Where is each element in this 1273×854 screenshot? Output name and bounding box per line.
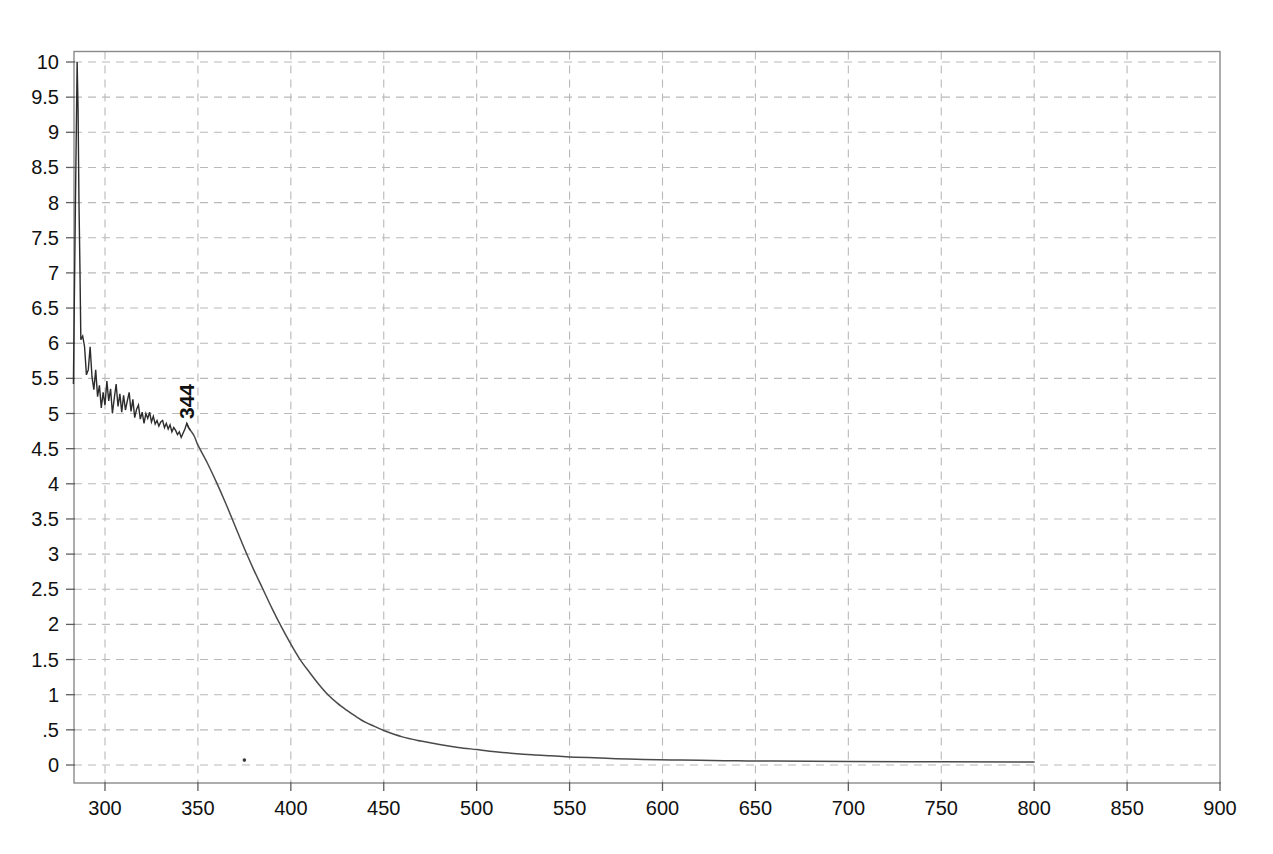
y-axis-labels: 0.511.522.533.544.555.566.577.588.599.51…: [31, 51, 59, 776]
y-tick-label: 9: [48, 121, 59, 143]
x-tick-label: 650: [739, 797, 772, 819]
x-gridlines-group: [105, 52, 1127, 784]
peak-annotations: 344: [175, 384, 198, 419]
y-tick-label: 5.5: [31, 367, 59, 389]
absorbance-curve-noise-region: [73, 62, 190, 437]
y-tick-label: 0: [48, 754, 59, 776]
y-tick-label: 3.5: [31, 508, 59, 530]
absorbance-curve: [187, 423, 1034, 762]
x-tick-label: 700: [832, 797, 865, 819]
x-tick-label: 500: [460, 797, 493, 819]
y-tick-label: 8: [48, 192, 59, 214]
spectrum-page: 0.511.522.533.544.555.566.577.588.599.51…: [0, 0, 1273, 854]
y-tick-label: 8.5: [31, 156, 59, 178]
y-tick-label: 1: [48, 684, 59, 706]
y-tick-label: 4: [48, 473, 59, 495]
y-tick-label: 7: [48, 262, 59, 284]
x-tick-label: 600: [646, 797, 679, 819]
x-tick-label: 900: [1203, 797, 1236, 819]
y-tick-label: 7.5: [31, 227, 59, 249]
x-tick-label: 350: [181, 797, 214, 819]
spectrum-plot: 0.511.522.533.544.555.566.577.588.599.51…: [0, 0, 1273, 854]
y-tick-label: 10: [37, 51, 59, 73]
x-tick-label: 850: [1110, 797, 1143, 819]
y-tick-label: 4.5: [31, 438, 59, 460]
peak-label-344: 344: [175, 384, 198, 419]
y-gridlines-group: [74, 62, 1220, 765]
chart-canvas: 0.511.522.533.544.555.566.577.588.599.51…: [0, 0, 1273, 854]
x-tick-label: 450: [367, 797, 400, 819]
y-tick-label: 6.5: [31, 297, 59, 319]
plot-frame: [74, 52, 1220, 784]
y-tick-label: 2.5: [31, 578, 59, 600]
x-tick-label: 550: [553, 797, 586, 819]
x-tick-label: 400: [274, 797, 307, 819]
x-tick-label: 300: [88, 797, 121, 819]
x-tick-label: 800: [1017, 797, 1050, 819]
y-tick-label: 3: [48, 543, 59, 565]
y-tick-label: 5: [48, 403, 59, 425]
scan-artifacts: [243, 758, 247, 762]
x-axis-labels: 300350400450500550600650700750800850900: [88, 797, 1236, 819]
y-tick-label: 1.5: [31, 649, 59, 671]
y-tick-label: 9.5: [31, 86, 59, 108]
x-tick-label: 750: [925, 797, 958, 819]
scan-speckle: [243, 758, 247, 762]
y-tick-label: 6: [48, 332, 59, 354]
y-tick-label: .5: [42, 719, 59, 741]
y-tickmarks-group: [66, 62, 75, 765]
y-tick-label: 2: [48, 613, 59, 635]
